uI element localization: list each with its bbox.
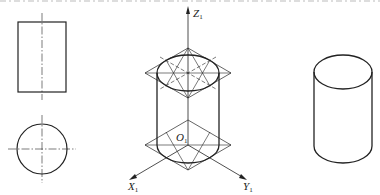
z-axis-arrow-icon: [186, 6, 190, 14]
cylinder-drawing: Z1 O1 X1 Y1: [0, 0, 380, 195]
z-axis-label: Z1: [193, 7, 203, 21]
x-axis-label: X1: [127, 180, 139, 194]
front-view: [18, 13, 66, 100]
top-view: [8, 115, 76, 183]
origin-label: O1: [176, 131, 188, 145]
axonometric-construction: [129, 6, 247, 180]
finished-cylinder: [314, 55, 372, 163]
y-axis-label: Y1: [243, 180, 253, 194]
